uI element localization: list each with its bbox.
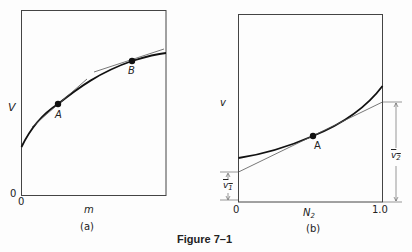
point-b-label: B xyxy=(128,66,135,76)
panel-a-y-axis-label: V xyxy=(8,102,16,113)
panel-a-label: (a) xyxy=(80,222,94,232)
point-a-marker xyxy=(55,101,61,107)
panel-a-graphics xyxy=(22,11,167,196)
panel-a-x-origin-label: 0 xyxy=(18,197,24,207)
v1-subscript: 1 xyxy=(228,184,232,192)
point-a-label: A xyxy=(55,110,62,120)
figure-7-1: V 0 0 m (a) A B v 0 1.0 N2 (b) A v1 v2 F… xyxy=(0,0,412,252)
panel-a-y-origin-label: 0 xyxy=(10,189,16,199)
v2-subscript: 2 xyxy=(396,154,400,162)
panel-b-y-axis-label: v xyxy=(220,98,226,108)
point-a-marker-b xyxy=(310,133,316,139)
panel-b-curve xyxy=(239,86,383,158)
panel-a-curve xyxy=(22,53,167,147)
v1-bar-label: v1 xyxy=(223,181,233,192)
panel-a-x-axis-label: m xyxy=(84,205,94,215)
panel-b-graphics xyxy=(220,15,402,203)
figure-caption: Figure 7–1 xyxy=(177,234,232,245)
figure-graphics xyxy=(0,0,412,252)
panel-b-x-origin-label: 0 xyxy=(233,205,239,215)
x-axis-label-subscript: 2 xyxy=(310,212,314,220)
panel-b-x-axis-label: N2 xyxy=(303,208,315,220)
panel-a-frame xyxy=(22,11,167,196)
panel-b-x-end-label: 1.0 xyxy=(372,205,388,215)
point-a-label-b: A xyxy=(314,141,321,151)
v2-bar-label: v2 xyxy=(391,151,401,162)
panel-b-label: (b) xyxy=(306,224,320,234)
point-b-marker xyxy=(129,58,135,64)
